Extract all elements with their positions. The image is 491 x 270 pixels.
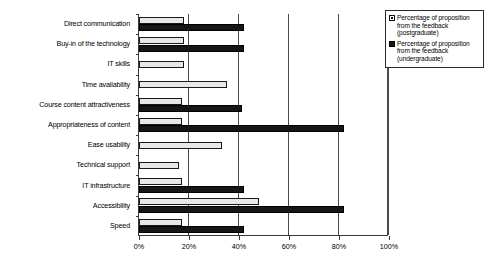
y-axis-category-label: Speed xyxy=(0,222,130,230)
chart-row xyxy=(139,216,388,236)
chart-row xyxy=(139,34,388,54)
plot-area: 0%20%40%60%80%100% xyxy=(138,14,388,236)
bar-undergraduate xyxy=(139,186,244,193)
y-axis-category-label: IT skills xyxy=(0,60,130,68)
x-axis-tick-label: 100% xyxy=(374,242,404,251)
chart-row xyxy=(139,115,388,135)
bar-postgraduate xyxy=(139,142,222,149)
bar-undergraduate xyxy=(139,226,244,233)
x-axis-tick xyxy=(289,236,290,240)
x-axis-tick xyxy=(189,236,190,240)
y-axis-category-label: Direct communication xyxy=(0,20,130,28)
x-axis-tick xyxy=(239,236,240,240)
chart-row xyxy=(139,75,388,95)
bar-undergraduate xyxy=(139,45,244,52)
x-axis-tick xyxy=(139,236,140,240)
bar-undergraduate xyxy=(139,24,244,31)
legend-label: Percentage of proposition from the feedb… xyxy=(397,14,480,37)
bar-postgraduate xyxy=(139,81,227,88)
bar-postgraduate xyxy=(139,98,182,105)
legend-swatch-light-icon xyxy=(389,15,395,21)
x-axis-tick xyxy=(389,236,390,240)
y-axis-category-label: Appropriateness of content xyxy=(0,121,130,129)
bar-postgraduate xyxy=(139,118,182,125)
bar-postgraduate xyxy=(139,219,182,226)
x-axis-tick xyxy=(339,236,340,240)
chart-row xyxy=(139,95,388,115)
y-axis-category-label: Buy-in of the technology xyxy=(0,40,130,48)
y-axis-category-label: Course content attractiveness xyxy=(0,101,130,109)
bar-postgraduate xyxy=(139,37,184,44)
legend-item[interactable]: Percentage of proposition from the feedb… xyxy=(389,40,480,63)
y-axis-category-label: Time availability xyxy=(0,81,130,89)
chart-row xyxy=(139,155,388,175)
y-axis-category-label: Technical support xyxy=(0,161,130,169)
bar-undergraduate xyxy=(139,125,344,132)
chart-row xyxy=(139,135,388,155)
x-axis-tick-label: 20% xyxy=(174,242,204,251)
y-axis-category-labels: Direct communicationBuy-in of the techno… xyxy=(0,14,134,236)
y-axis-category-label: Ease usability xyxy=(0,141,130,149)
x-axis-tick-label: 0% xyxy=(124,242,154,251)
bar-chart: Direct communicationBuy-in of the techno… xyxy=(0,0,491,270)
bar-postgraduate xyxy=(139,17,184,24)
legend-item[interactable]: Percentage of proposition from the feedb… xyxy=(389,14,480,37)
bar-undergraduate xyxy=(139,206,344,213)
bar-postgraduate xyxy=(139,178,182,185)
legend-swatch-dark-icon xyxy=(389,41,395,47)
chart-legend: Percentage of proposition from the feedb… xyxy=(385,10,484,68)
chart-row xyxy=(139,54,388,74)
x-axis-tick-label: 80% xyxy=(324,242,354,251)
y-axis-category-label: IT infrastructure xyxy=(0,182,130,190)
legend-label: Percentage of proposition from the feedb… xyxy=(397,40,480,63)
chart-row xyxy=(139,196,388,216)
x-axis-tick-label: 40% xyxy=(224,242,254,251)
chart-row xyxy=(139,175,388,195)
bar-postgraduate xyxy=(139,162,179,169)
x-axis-tick-label: 60% xyxy=(274,242,304,251)
bar-postgraduate xyxy=(139,61,184,68)
bar-postgraduate xyxy=(139,198,259,205)
y-axis-category-label: Accessibility xyxy=(0,202,130,210)
bar-undergraduate xyxy=(139,105,242,112)
chart-row xyxy=(139,14,388,34)
